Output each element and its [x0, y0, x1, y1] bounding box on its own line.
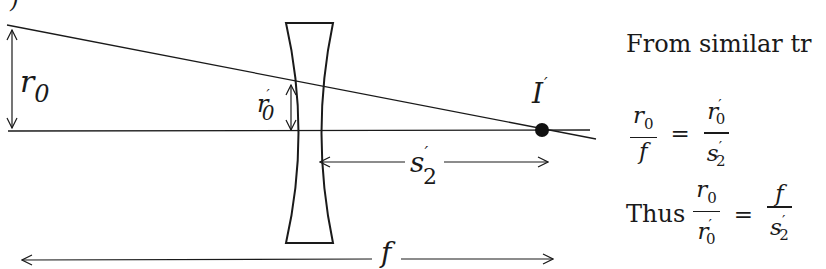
s2-prime-label: s′2 [410, 143, 437, 189]
eq2-equals: = [734, 201, 753, 227]
derivation-heading: From similar tr [626, 30, 812, 58]
diverging-lens [286, 23, 333, 243]
eq1-equals: = [671, 120, 690, 146]
r0-prime-label: r′0 [257, 87, 275, 125]
r0-label: r0 [20, 64, 50, 108]
f-arrow-left [22, 259, 372, 260]
eq1-rhs-fraction: r′0 s′2 [704, 92, 729, 174]
equation-thus: Thus r0 r′0 = f s′2 [626, 176, 796, 252]
corner-mark: ) [9, 0, 19, 13]
eq2-rhs-fraction: f s′2 [767, 180, 792, 248]
light-ray [7, 25, 596, 139]
image-point-label: I′ [531, 74, 548, 110]
eq2-lhs-fraction: r0 r′0 [693, 176, 720, 252]
eq2-prefix: Thus [626, 200, 685, 228]
image-point-dot [535, 123, 549, 137]
f-label: f [379, 236, 396, 269]
eq1-lhs-fraction: r0 f [630, 102, 657, 164]
equation-similar-triangles: r0 f = r′0 s′2 [626, 92, 733, 174]
